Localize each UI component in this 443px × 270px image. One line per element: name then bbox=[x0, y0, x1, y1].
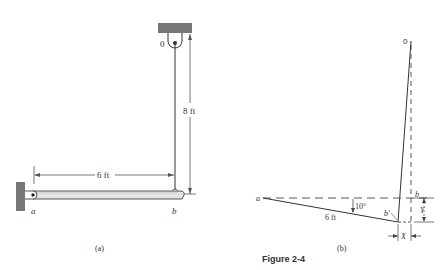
point-a-label-b: a bbox=[256, 194, 260, 203]
panel-a: 0 8 ft a b 6 ft (a) bbox=[16, 23, 200, 253]
pin-a-icon bbox=[31, 193, 34, 196]
point-b-label: b bbox=[172, 206, 177, 216]
rope-length-label: 8 ft bbox=[183, 106, 196, 116]
length-label-b: 6 ft bbox=[325, 213, 337, 222]
panel-a-label: (a) bbox=[95, 244, 104, 253]
pulley-label: 0 bbox=[160, 39, 165, 49]
panel-b: 0 a b b' 10° 6 ft Y X (b) bbox=[256, 37, 434, 253]
figure-caption: Figure 2-4 bbox=[262, 254, 305, 264]
point-a-label: a bbox=[31, 206, 36, 216]
bar bbox=[29, 191, 184, 199]
deflected-rope bbox=[398, 41, 411, 222]
wall-support bbox=[16, 182, 25, 211]
bar-length-label: 6 ft bbox=[97, 170, 110, 180]
angle-label: 10° bbox=[355, 202, 366, 211]
figure-2-4: 0 8 ft a b 6 ft (a) 0 bbox=[0, 0, 443, 270]
point-b-prime-label: b' bbox=[384, 209, 390, 218]
panel-b-label: (b) bbox=[337, 244, 347, 253]
dx-label: X bbox=[400, 232, 407, 241]
dy-label: Y bbox=[420, 206, 426, 215]
top-point-label: 0 bbox=[403, 37, 408, 46]
ceiling-support bbox=[158, 23, 192, 33]
